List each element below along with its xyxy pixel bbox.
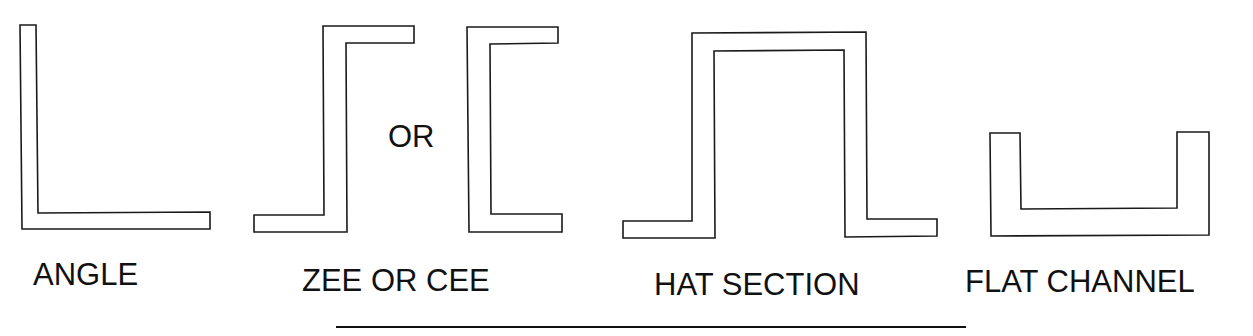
or-connector-label: OR xyxy=(388,121,435,152)
cee-section-shape xyxy=(467,27,562,232)
flat-channel-label: FLAT CHANNEL xyxy=(965,266,1195,297)
angle-label: ANGLE xyxy=(33,259,138,290)
group-underline-rule xyxy=(336,326,966,328)
hat-section-label: HAT SECTION xyxy=(654,269,860,300)
zee-or-cee-label: ZEE OR CEE xyxy=(302,265,490,296)
angle-section-shape xyxy=(20,25,210,229)
flat-channel-shape xyxy=(990,132,1209,236)
hat-section-shape xyxy=(623,32,937,238)
